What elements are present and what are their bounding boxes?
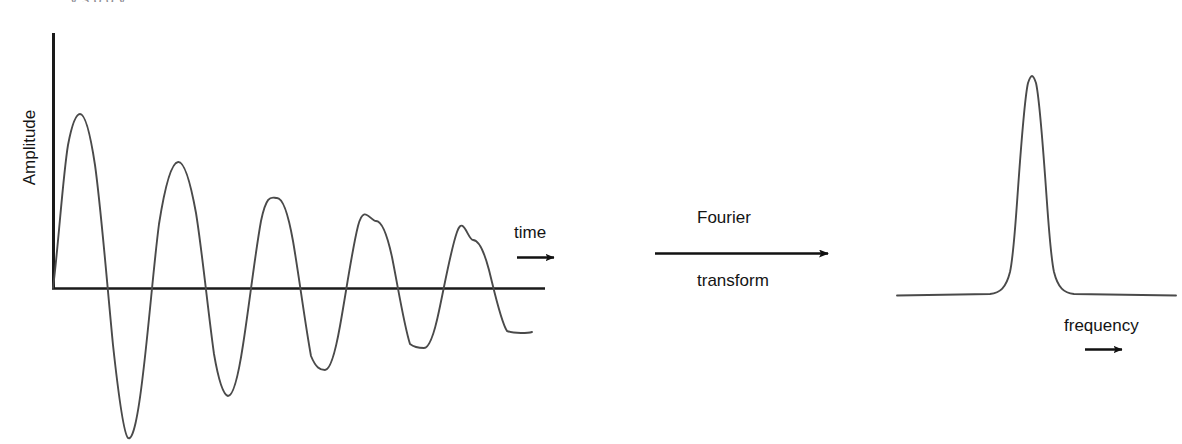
time-domain-plot bbox=[52, 33, 554, 438]
fourier-transform-figure: y s p g y bbox=[0, 0, 1182, 444]
lorentzian-peak-curve bbox=[897, 76, 1176, 296]
x-axis-label-frequency: frequency bbox=[1064, 315, 1139, 336]
x-axis-label-time: time bbox=[514, 222, 546, 243]
fourier-transform-label-line1: Fourier bbox=[697, 207, 769, 228]
frequency-domain-plot bbox=[897, 76, 1176, 350]
damped-sine-curve bbox=[53, 114, 532, 438]
y-axis-label-amplitude: Amplitude bbox=[19, 101, 40, 195]
fourier-transform-label: Fourier transform bbox=[697, 165, 769, 333]
fourier-transform-label-line2: transform bbox=[697, 270, 769, 291]
figure-canvas bbox=[0, 0, 1182, 444]
